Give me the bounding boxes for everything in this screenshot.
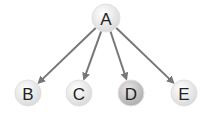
node-E: E	[171, 80, 197, 106]
edge-A-D	[110, 31, 126, 78]
tree-diagram: ABCDE	[0, 0, 206, 120]
node-label: D	[125, 85, 137, 104]
edge-A-B	[39, 28, 96, 83]
edges	[39, 28, 173, 83]
node-D: D	[118, 80, 144, 106]
nodes: ABCDE	[15, 4, 197, 106]
node-label: A	[100, 10, 112, 29]
node-B: B	[15, 80, 41, 106]
node-C: C	[66, 80, 92, 106]
node-label: C	[73, 85, 85, 104]
node-A: A	[92, 4, 120, 32]
node-label: E	[178, 85, 189, 104]
edge-A-C	[84, 31, 101, 79]
node-label: B	[22, 85, 33, 104]
